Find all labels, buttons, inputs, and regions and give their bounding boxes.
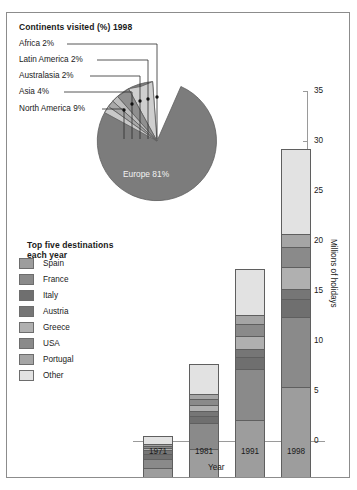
bar-1971-seg-other bbox=[143, 436, 173, 444]
y-tick-mark-30 bbox=[303, 141, 307, 142]
bar-1991-seg-greece bbox=[235, 336, 265, 349]
bar-1991-seg-portugal bbox=[235, 315, 265, 324]
legend-swatch-austria bbox=[19, 306, 34, 317]
y-axis-title: Millions of holidays bbox=[329, 239, 338, 308]
y-tick-label-5: 5 bbox=[314, 386, 319, 395]
bar-1998-seg-italy bbox=[281, 299, 311, 317]
bar-1981-seg-france bbox=[189, 423, 219, 449]
y-tick-label-10: 10 bbox=[314, 336, 323, 345]
x-axis-title: Year bbox=[208, 463, 225, 472]
y-tick-label-35: 35 bbox=[314, 86, 323, 95]
pie-label-australasia: Australasia 2% bbox=[19, 71, 74, 80]
bar-1991-seg-usa bbox=[235, 324, 265, 336]
legend-item-austria: Austria bbox=[19, 305, 68, 318]
pie-label-latin-america: Latin America 2% bbox=[19, 55, 83, 64]
legend-item-spain: Spain bbox=[19, 257, 64, 270]
legend-swatch-spain bbox=[19, 258, 34, 269]
bar-1998-seg-austria bbox=[281, 289, 311, 299]
y-tick-label-0: 0 bbox=[314, 436, 319, 445]
legend-item-usa: USA bbox=[19, 337, 60, 350]
pie-label-africa: Africa 2% bbox=[19, 39, 54, 48]
legend-label-spain: Spain bbox=[43, 259, 64, 268]
y-tick-mark-35 bbox=[303, 91, 307, 92]
bar-1991-seg-italy bbox=[235, 357, 265, 369]
x-tick-label-1981: 1981 bbox=[181, 447, 227, 456]
bar-1991-seg-france bbox=[235, 369, 265, 420]
bar-1981-seg-italy bbox=[189, 416, 219, 423]
figure-panel: Continents visited (%) 1998 bbox=[6, 12, 350, 478]
bar-1998-seg-greece bbox=[281, 267, 311, 289]
legend-swatch-greece bbox=[19, 322, 34, 333]
legend-label-portugal: Portugal bbox=[43, 355, 74, 364]
bar-1998-seg-portugal bbox=[281, 234, 311, 247]
y-tick-label-20: 20 bbox=[314, 236, 323, 245]
x-tick-label-1991: 1991 bbox=[227, 447, 273, 456]
bar-chart-legend: Top five destinations each year Spain Fr… bbox=[15, 235, 133, 387]
bar-1971 bbox=[143, 436, 173, 478]
bar-1991-seg-austria bbox=[235, 349, 265, 357]
bar-1998-seg-usa bbox=[281, 247, 311, 267]
bar-1971-seg-france bbox=[143, 459, 173, 468]
legend-item-france: France bbox=[19, 273, 68, 286]
bar-1998-seg-france bbox=[281, 317, 311, 387]
legend-swatch-other bbox=[19, 370, 34, 381]
bar-1981-seg-other bbox=[189, 364, 219, 394]
bar-chart: 35 30 25 20 15 10 5 0 Millions of holida… bbox=[133, 41, 350, 478]
pie-label-north-america: North America 9% bbox=[19, 104, 85, 113]
y-tick-label-15: 15 bbox=[314, 286, 323, 295]
legend-item-portugal: Portugal bbox=[19, 353, 74, 366]
legend-item-italy: Italy bbox=[19, 289, 58, 302]
y-tick-label-30: 30 bbox=[314, 136, 323, 145]
legend-item-greece: Greece bbox=[19, 321, 70, 334]
bar-1991-seg-other bbox=[235, 269, 265, 315]
bar-1998-seg-spain bbox=[281, 387, 311, 478]
pie-label-asia: Asia 4% bbox=[19, 87, 49, 96]
legend-label-italy: Italy bbox=[43, 291, 58, 300]
bar-1998-seg-other bbox=[281, 149, 311, 234]
legend-swatch-usa bbox=[19, 338, 34, 349]
bar-1998 bbox=[281, 149, 311, 478]
bar-1971-seg-spain bbox=[143, 468, 173, 478]
legend-label-austria: Austria bbox=[43, 307, 68, 316]
bar-1981 bbox=[189, 364, 219, 478]
legend-label-other: Other bbox=[43, 371, 63, 380]
legend-label-greece: Greece bbox=[43, 323, 70, 332]
legend-label-france: France bbox=[43, 275, 68, 284]
x-tick-label-1998: 1998 bbox=[273, 447, 319, 456]
legend-item-other: Other bbox=[19, 369, 63, 382]
legend-label-usa: USA bbox=[43, 339, 60, 348]
legend-swatch-portugal bbox=[19, 354, 34, 365]
legend-swatch-france bbox=[19, 274, 34, 285]
x-tick-label-1971: 1971 bbox=[135, 447, 181, 456]
legend-swatch-italy bbox=[19, 290, 34, 301]
y-tick-label-25: 25 bbox=[314, 186, 323, 195]
